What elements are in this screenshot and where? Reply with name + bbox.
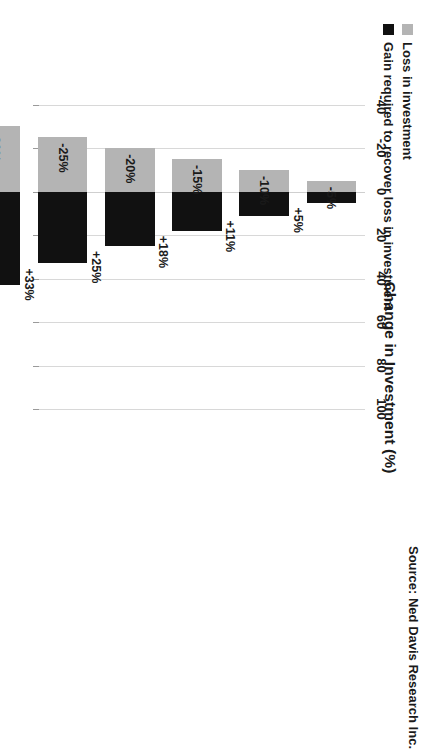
- square-gray-swatch: [402, 24, 413, 35]
- legend-item-gain[interactable]: Gain required to recover loss in investm…: [381, 24, 396, 310]
- axis-tick-label: -40: [374, 95, 389, 114]
- bar-label-loss: -10%: [258, 176, 271, 205]
- gridline-60: [39, 322, 365, 323]
- bar-label-loss: -15%: [191, 165, 204, 194]
- chart-figure: Change in Investment (%) Loss in investm…: [0, 0, 429, 755]
- rotated-figure-wrapper: Change in Investment (%) Loss in investm…: [0, 0, 429, 755]
- axis-tick-label: 20: [374, 228, 389, 242]
- legend-item-loss[interactable]: Loss in investment: [400, 24, 415, 160]
- gridline-80: [39, 366, 365, 367]
- bar-segment-gain[interactable]: [105, 192, 155, 246]
- tickmark-60: [33, 322, 39, 323]
- bar-label-gain: +11%: [224, 221, 237, 253]
- bar-segment-loss[interactable]: [0, 126, 20, 191]
- legend-item-label: Loss in investment: [400, 42, 415, 160]
- bar-segment-gain[interactable]: [172, 192, 222, 231]
- gridline-40: [39, 279, 365, 280]
- bar-label-gain: +33%: [22, 268, 35, 300]
- axis-tick-label: 60: [374, 315, 389, 329]
- gridline--20: [39, 148, 365, 149]
- bar-label-gain: +25%: [89, 251, 102, 283]
- axis-tick-label: 100: [374, 398, 389, 420]
- axis-tick-label: -20: [374, 139, 389, 158]
- bar-label-gain: +18%: [157, 236, 170, 268]
- axis-tick-label: 0: [374, 188, 389, 195]
- bar-label-loss: -30%: [0, 132, 1, 161]
- bar-segment-gain[interactable]: [38, 192, 88, 264]
- bar-label-loss: -5%: [325, 187, 338, 209]
- axis-tick-label: 80: [374, 358, 389, 372]
- bar-segment-gain[interactable]: [0, 192, 20, 285]
- plot-area: -40-20020406080100-5%+5%-10%+11%-15%+18%…: [39, 83, 365, 755]
- legend-item-label: Gain required to recover loss in investm…: [381, 42, 396, 310]
- axis-tick-label: 40: [374, 271, 389, 285]
- tickmark-80: [33, 366, 39, 367]
- bar-label-loss: -25%: [56, 143, 69, 172]
- gridline--40: [39, 105, 365, 106]
- square-black-swatch: [383, 24, 394, 35]
- gridline-20: [39, 235, 365, 236]
- bar-label-loss: -20%: [123, 154, 136, 183]
- bar-label-gain: +5%: [291, 208, 304, 233]
- tickmark--40: [33, 105, 39, 106]
- tickmark-100: [33, 409, 39, 410]
- chart-source-note: Source: Ned Davis Research Inc.: [406, 546, 421, 749]
- gridline-100: [39, 409, 365, 410]
